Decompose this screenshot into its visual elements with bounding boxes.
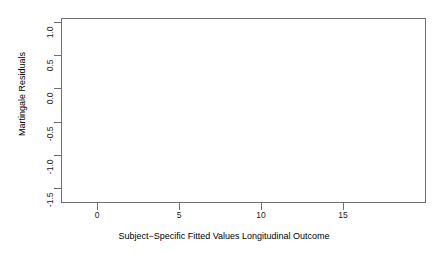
y-tick-mark: [54, 155, 61, 156]
x-tick-label: 5: [159, 211, 199, 220]
x-tick-label: 0: [77, 211, 117, 220]
martingale-residual-plot: 1.0 0.5 0.0 -0.5 -1.0 -1.5 0 5 10 15 Mar…: [0, 0, 448, 254]
x-axis-title: Subject−Specific Fitted Values Longitudi…: [0, 231, 448, 241]
y-tick-mark: [54, 22, 61, 23]
y-tick-label: 0.0: [47, 93, 56, 105]
y-tick-mark: [54, 188, 61, 189]
y-tick-label: -0.5: [47, 127, 56, 142]
x-tick-mark: [179, 203, 180, 210]
y-tick-label: -1.5: [47, 193, 56, 208]
x-tick-label: 10: [241, 211, 281, 220]
x-tick-mark: [343, 203, 344, 210]
y-tick-label: -1.0: [47, 160, 56, 175]
y-tick-label: 0.5: [47, 60, 56, 72]
y-tick-label: 1.0: [47, 27, 56, 39]
y-tick-mark: [54, 88, 61, 89]
y-tick-mark: [54, 122, 61, 123]
plot-frame: [61, 18, 426, 203]
x-tick-mark: [261, 203, 262, 210]
x-tick-mark: [97, 203, 98, 210]
x-tick-label: 15: [323, 211, 363, 220]
y-axis-title: Martingale Residuals: [17, 29, 27, 159]
y-tick-mark: [54, 55, 61, 56]
